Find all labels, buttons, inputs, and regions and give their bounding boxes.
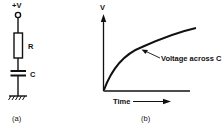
caption-a: (a) [12,114,22,123]
annotation-leader [145,51,160,58]
x-axis-label: Time [113,97,130,106]
ground-icon [9,96,28,100]
rc-circuit: +V R C (a) [9,1,37,123]
time-arrow-icon [163,99,171,104]
capacitor-label: C [30,70,36,79]
curve-annotation: Voltage across C [161,54,222,63]
supply-label: +V [12,1,21,10]
y-axis-arrow-icon [101,14,106,22]
resistor-icon [14,33,23,58]
caption-b: (b) [141,114,151,123]
supply-terminal-icon [15,12,20,17]
resistor-label: R [28,42,34,51]
y-axis-label: V [100,3,105,12]
charging-graph: V Voltage across C Time (b) [100,3,222,123]
rc-charging-figure: +V R C (a) V Voltage across C Time [0,0,224,126]
